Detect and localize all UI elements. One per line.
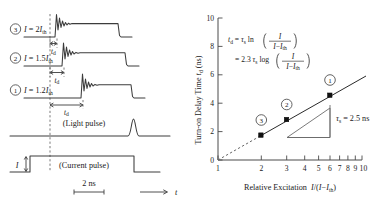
pulse-waveform-panel: 3 I = 2Ith td 2 I = 1.5Ith <box>0 0 190 207</box>
x-tick-label-5: 5 <box>317 164 321 173</box>
delay-plot-svg: Turn-on Delay Time td (ns) 0 2 4 6 8 10 <box>190 0 381 207</box>
light-pulse-label: (Light pulse) <box>63 119 106 128</box>
trace-group-3: 3 I = 2Ith td <box>10 15 132 56</box>
formula-line-2: = 2.3 τs log I I−Ith <box>235 52 309 71</box>
x-axis-ticks: 1 2 3 4 5 6 7 8 9 10 <box>216 156 367 174</box>
td-measure-1: td <box>50 100 83 117</box>
x-tick-label-1: 1 <box>216 164 220 173</box>
x-tick-label-6: 6 <box>328 164 332 173</box>
formula-2-paren-left <box>277 54 279 69</box>
x-tick-label-8: 8 <box>346 164 350 173</box>
data-point-3[interactable] <box>259 133 263 137</box>
trace-label-3: I = 2Ith <box>23 25 47 35</box>
x-tick-label-9: 9 <box>353 164 357 173</box>
point-marker-label-3: 3 <box>260 117 264 125</box>
marker-label-3: 3 <box>14 26 18 34</box>
marker-label-1: 1 <box>14 87 18 95</box>
current-pulse-group: I (Current pulse) <box>10 156 160 172</box>
formula-1-denominator: I−Ith <box>272 42 287 52</box>
y-tick-label-6: 6 <box>210 70 214 79</box>
formula-block: td = τs ln I I−Ith = 2.3 τs log <box>228 32 309 71</box>
formula-line-1-lhs: td = τs ln <box>228 35 254 45</box>
light-pulse-group: (Light pulse) <box>10 119 170 136</box>
y-axis-label: Turn-on Delay Time td (ns) <box>194 55 204 144</box>
y-tick-label-10: 10 <box>206 14 214 23</box>
formula-2-numerator: I <box>291 52 295 61</box>
y-axis-ticks: 0 2 4 6 8 10 <box>206 14 222 165</box>
trace-label-1: I = 1.2Ith <box>23 86 53 96</box>
fit-line-extrapolated <box>218 135 261 160</box>
x-tick-label-10: 10 <box>360 164 368 173</box>
x-tick-label-2: 2 <box>259 164 263 173</box>
slope-triangle <box>287 105 330 138</box>
trace-group-1: 1 I = 1.2Ith td <box>10 74 145 117</box>
x-tick-label-4: 4 <box>303 164 307 173</box>
x-tick-label-3: 3 <box>285 164 289 173</box>
formula-1-paren-right <box>294 34 296 49</box>
scale-bar-group: 2 ns <box>74 179 104 195</box>
data-point-2[interactable] <box>284 117 288 121</box>
x-tick-label-7: 7 <box>338 164 342 173</box>
td-measure-2: td <box>50 68 64 85</box>
td-measure-3: td <box>50 39 57 56</box>
y-tick-label-2: 2 <box>210 127 214 136</box>
scale-bar-label: 2 ns <box>82 179 95 188</box>
y-tick-label-0: 0 <box>210 156 214 165</box>
fit-line <box>261 76 366 135</box>
slope-annotation: τs = 2.5 ns <box>336 114 369 124</box>
data-point-1[interactable] <box>328 93 332 97</box>
point-marker-label-1: 1 <box>328 77 332 85</box>
current-pulse-label: (Current pulse) <box>59 161 109 170</box>
time-axis-arrow-group: t <box>140 188 178 197</box>
formula-1-numerator: I <box>278 32 282 41</box>
current-amplitude-arrow <box>24 157 27 172</box>
trace-label-2: I = 1.5Ith <box>23 54 53 64</box>
formula-line-2-lhs: = 2.3 τs log <box>235 55 269 65</box>
figure-root: 3 I = 2Ith td 2 I = 1.5Ith <box>0 0 381 207</box>
delay-plot-panel: Turn-on Delay Time td (ns) 0 2 4 6 8 10 <box>190 0 381 207</box>
x-axis-label: Relative Excitation I/(I−Ith) <box>244 183 336 193</box>
pulse-waveform-svg: 3 I = 2Ith td 2 I = 1.5Ith <box>0 0 190 207</box>
formula-line-1: td = τs ln I I−Ith <box>228 32 296 51</box>
td-label-3: td <box>51 48 56 56</box>
point-marker-label-2: 2 <box>285 101 289 109</box>
marker-label-2: 2 <box>14 55 18 63</box>
td-label-1: td <box>64 109 69 117</box>
y-tick-label-4: 4 <box>210 99 214 108</box>
formula-1-paren-left <box>264 34 266 49</box>
y-tick-label-8: 8 <box>210 42 214 51</box>
time-axis-label: t <box>175 188 178 197</box>
current-amplitude-symbol: I <box>15 161 20 170</box>
data-points: 3 2 1 <box>256 75 335 138</box>
td-label-2: td <box>55 77 60 85</box>
formula-2-paren-right <box>307 54 309 69</box>
trace-group-2: 2 I = 1.5Ith td <box>10 43 139 85</box>
formula-2-denominator: I−Ith <box>285 62 300 72</box>
